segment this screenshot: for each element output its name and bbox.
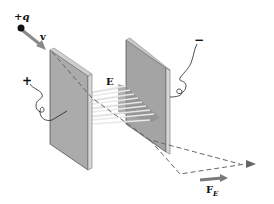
field-label: E: [106, 77, 114, 87]
positive-sign-label: +: [22, 75, 32, 87]
charge-dot: [18, 25, 25, 32]
right-wire: [170, 44, 197, 97]
force-label: FE: [206, 185, 218, 197]
capacitor-diagram: +q v E + − FE: [0, 0, 274, 204]
left-plate: [50, 48, 92, 170]
charge-label: +q: [14, 12, 29, 22]
trajectory-arrowhead: [246, 160, 256, 168]
velocity-label: v: [40, 32, 46, 42]
negative-sign-label: −: [194, 34, 204, 46]
force-arrow: [200, 174, 228, 182]
